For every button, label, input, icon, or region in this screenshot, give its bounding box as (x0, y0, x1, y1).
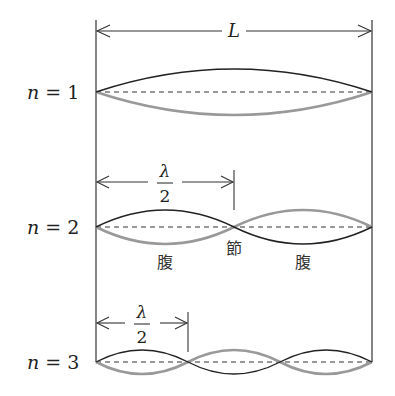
mode-1: n=1 (27, 69, 372, 115)
half-wavelength-dimension-3: λ 2 (97, 302, 188, 352)
mode-3: λ 2 n=3 (27, 302, 372, 374)
denominator-label: 2 (137, 327, 148, 347)
mode-label-3: n=3 (27, 351, 79, 373)
antinode-label-right: 腹 (295, 253, 311, 272)
lambda-label: λ (136, 302, 148, 322)
mode-2: λ 2 n=2 節 腹 腹 (27, 161, 372, 272)
length-label: L (227, 20, 240, 41)
antinode-label-left: 腹 (157, 253, 173, 272)
half-wavelength-dimension-2: λ 2 (97, 161, 234, 210)
standing-wave-diagram: L n=1 λ 2 n=2 節 腹 腹 (0, 0, 395, 396)
wave-curve-light (96, 92, 372, 115)
lambda-label: λ (159, 161, 171, 181)
mode-label-1: n=1 (27, 81, 79, 103)
denominator-label: 2 (160, 186, 171, 206)
length-dimension: L (97, 20, 371, 41)
wave-curve-dark (96, 69, 372, 92)
mode-label-2: n=2 (27, 216, 79, 238)
node-label: 節 (226, 239, 242, 258)
